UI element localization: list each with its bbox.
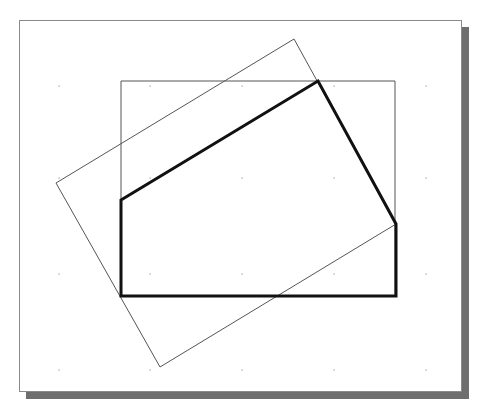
grid-dot (242, 178, 243, 179)
grid-dot (59, 178, 60, 179)
grid-dot (426, 274, 427, 275)
axis-aligned-rectangle (121, 81, 395, 296)
grid-dot (150, 370, 151, 371)
grid-dot (334, 370, 335, 371)
grid-dot (150, 178, 151, 179)
grid-dot (242, 274, 243, 275)
grid-dot (334, 178, 335, 179)
diagram-canvas (0, 0, 488, 412)
rotated-rectangle (56, 39, 396, 367)
grid-dot (150, 86, 151, 87)
grid-dot (59, 86, 60, 87)
grid-dot (426, 86, 427, 87)
grid-dot (242, 86, 243, 87)
grid-dot (242, 370, 243, 371)
clipped-intersection-polygon (121, 81, 396, 296)
grid-dot (59, 274, 60, 275)
grid-dot (334, 274, 335, 275)
grid-dot (150, 274, 151, 275)
grid-dot (59, 370, 60, 371)
grid-dot (426, 178, 427, 179)
grid-dot (334, 86, 335, 87)
grid-dot (426, 370, 427, 371)
